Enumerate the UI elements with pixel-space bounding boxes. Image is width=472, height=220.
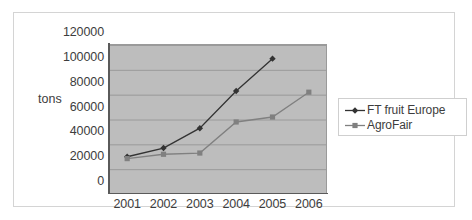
data-point-diamond-marker <box>160 145 166 151</box>
legend-square-marker-icon <box>344 120 366 131</box>
chart-legend: FT fruit EuropeAgroFair <box>338 98 467 136</box>
y-axis-tick-label: 40000 <box>46 125 104 138</box>
x-axis-tick-label: 2002 <box>145 197 181 213</box>
data-point-square-marker <box>125 156 130 161</box>
data-point-square-marker <box>161 152 166 157</box>
x-axis-tick-labels: 200120022003200420052006 <box>109 197 327 213</box>
y-axis-tick-label: 120000 <box>46 26 104 39</box>
chart-frame: 020000400006000080000100000120000 tons 2… <box>13 12 455 207</box>
y-axis-tick-label: 0 <box>46 175 104 188</box>
y-axis-line <box>108 43 110 194</box>
plot-canvas <box>109 45 327 194</box>
legend-diamond-marker-icon <box>344 105 366 116</box>
y-axis-tick-label: 20000 <box>46 150 104 163</box>
x-axis-line <box>108 193 328 194</box>
y-axis-tick-labels: 020000400006000080000100000120000 <box>40 13 104 220</box>
series-line <box>127 59 272 157</box>
x-axis-tick-label: 2001 <box>109 197 145 213</box>
legend-entry[interactable]: AgroFair <box>344 118 461 133</box>
y-axis-title: tons <box>38 92 62 106</box>
data-point-diamond-marker <box>352 107 358 113</box>
legend-label: AgroFair <box>366 119 412 132</box>
x-axis-tick-label: 2004 <box>218 197 254 213</box>
data-point-square-marker <box>306 90 311 95</box>
series-line <box>127 92 309 158</box>
x-axis-tick-label: 2003 <box>182 197 218 213</box>
series-ft-fruit-europe <box>124 55 276 159</box>
data-point-square-marker <box>270 114 275 119</box>
series-layer <box>124 55 311 161</box>
legend-entry[interactable]: FT fruit Europe <box>344 103 461 118</box>
plot-area <box>109 44 327 193</box>
legend-label: FT fruit Europe <box>366 104 445 117</box>
y-axis-tick-label: 80000 <box>46 76 104 89</box>
data-point-square-marker <box>234 119 239 124</box>
data-point-square-marker <box>352 123 357 128</box>
data-point-square-marker <box>197 150 202 155</box>
x-axis-tick-label: 2005 <box>254 197 290 213</box>
chart-figure: 020000400006000080000100000120000 tons 2… <box>0 0 472 220</box>
gridlines <box>109 46 327 170</box>
x-axis-tick-label: 2006 <box>291 197 327 213</box>
y-axis-tick-label: 100000 <box>46 51 104 64</box>
